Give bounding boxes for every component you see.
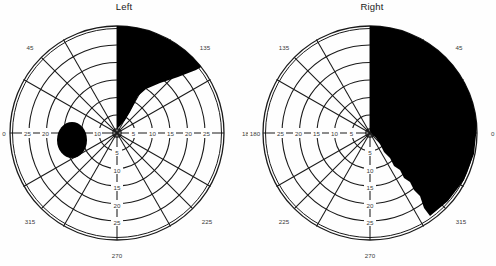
- angle-label-315: 315: [25, 218, 36, 225]
- radial-label-left-25: 25: [24, 130, 31, 137]
- radial-label-down-10: 10: [367, 167, 374, 174]
- defect-region-hemianopia-right: [370, 26, 477, 216]
- radial-label-down-15: 15: [367, 184, 374, 191]
- angle-label-225: 225: [202, 218, 213, 225]
- radial-label-down-15: 15: [114, 184, 121, 191]
- angle-label-270: 270: [112, 252, 123, 259]
- radial-label-left-5: 5: [350, 130, 354, 137]
- angle-label-45: 45: [456, 44, 463, 51]
- angle-label-180: 0: [2, 130, 6, 137]
- angle-label-270: 270: [365, 252, 376, 259]
- visual-field-chart-left: Left: [0, 0, 248, 266]
- angle-label-180: 180: [250, 130, 261, 137]
- radial-label-down-20: 20: [114, 202, 121, 209]
- radial-label-down-5: 5: [115, 149, 119, 156]
- radial-label-left-15: 15: [313, 130, 320, 137]
- radial-label-left-25: 25: [277, 130, 284, 137]
- radial-label-right-25: 25: [203, 130, 210, 137]
- angle-label-135: 135: [200, 44, 211, 51]
- defect-region-blind-spot-left: [57, 122, 87, 158]
- radial-label-down-20: 20: [367, 202, 374, 209]
- radial-label-down-25: 25: [367, 219, 374, 226]
- angle-label-135: 135: [279, 44, 290, 51]
- angle-label-225: 225: [279, 218, 290, 225]
- angle-label-0: 0: [491, 130, 495, 137]
- angle-label-45: 45: [27, 44, 34, 51]
- radial-label-left-10: 10: [331, 130, 338, 137]
- radial-label-right-5: 5: [132, 130, 136, 137]
- figure-root: Left: [0, 0, 496, 266]
- polar-plot-left: 45 135 0 180 315 225 270 25 20 10: [0, 0, 248, 266]
- radial-label-left-20: 20: [42, 130, 49, 137]
- polar-plot-right: 135 45 180 0 225 315 270 25 20 15 10 5: [248, 0, 496, 266]
- visual-field-chart-right: Right: [248, 0, 496, 266]
- radial-label-right-10: 10: [149, 130, 156, 137]
- radial-label-down-25: 25: [114, 219, 121, 226]
- angle-label-315: 315: [456, 218, 467, 225]
- radial-label-down-10: 10: [114, 167, 121, 174]
- radial-label-down-5: 5: [368, 149, 372, 156]
- radial-label-right-15: 15: [167, 130, 174, 137]
- radial-label-left-10: 10: [94, 130, 101, 137]
- defect-region-superior-wedge-left: [117, 26, 210, 129]
- radial-label-right-20: 20: [185, 130, 192, 137]
- radial-label-left-20: 20: [295, 130, 302, 137]
